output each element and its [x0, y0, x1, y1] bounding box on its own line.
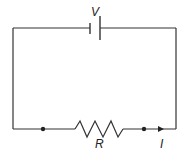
battery-label: V: [91, 5, 100, 19]
node-dot-right: [142, 127, 146, 131]
battery-symbol: [90, 16, 100, 40]
circuit-diagram: V R I: [0, 0, 189, 156]
resistor-symbol: [75, 121, 123, 137]
current-arrow-icon: [158, 126, 164, 132]
resistor-label: R: [95, 137, 104, 151]
current-label: I: [160, 137, 164, 151]
node-dot-left: [41, 127, 45, 131]
